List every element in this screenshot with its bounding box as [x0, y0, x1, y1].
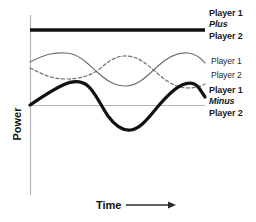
- legend-sum-line2: Plus: [209, 20, 243, 29]
- player2-dashed-curve: [30, 56, 205, 88]
- legend-difference-line3: Player 2: [209, 109, 243, 118]
- legend-difference: Player 1 Minus Player 2: [209, 86, 243, 114]
- x-axis-label: Time: [96, 199, 121, 211]
- y-axis-label: Power: [11, 94, 23, 154]
- legend-sum-line3: Player 2: [209, 32, 243, 41]
- legend-difference-line1: Player 1: [209, 86, 243, 95]
- power-vs-time-diagram: Power Time Player 1 Plus Player 2 Player…: [0, 0, 256, 222]
- legend-difference-line2: Minus: [209, 97, 243, 106]
- legend-sum: Player 1 Plus Player 2: [209, 9, 243, 37]
- legend-player1-label: Player 1: [211, 57, 242, 66]
- legend-player2-label: Player 2: [211, 71, 242, 80]
- arrow-right-icon: [126, 202, 176, 209]
- legend-individual: Player 1 Player 2: [211, 57, 242, 75]
- legend-sum-line1: Player 1: [209, 9, 243, 18]
